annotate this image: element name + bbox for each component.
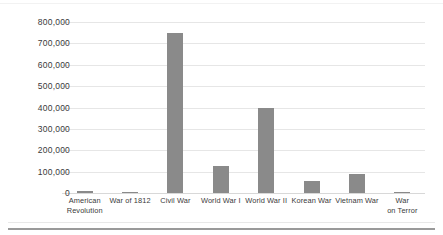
gridline <box>62 193 425 194</box>
x-axis-category-label: Waron Terror <box>373 196 432 215</box>
bar-series <box>62 22 425 193</box>
bar <box>122 192 138 194</box>
y-axis-tick-label: 800,000 <box>4 18 70 27</box>
figure-bottom-rule <box>8 228 435 230</box>
y-axis-tick-label: 400,000 <box>4 103 70 112</box>
bar <box>213 166 229 193</box>
x-axis-category-label-line: Revolution <box>55 206 114 216</box>
bar <box>394 192 410 194</box>
bar <box>349 174 365 193</box>
bar <box>77 191 93 193</box>
bar <box>304 181 320 193</box>
y-axis-tick-label: 300,000 <box>4 125 70 134</box>
y-axis-tick-label: 700,000 <box>4 39 70 48</box>
y-axis-tick-label: 500,000 <box>4 82 70 91</box>
bar <box>258 108 274 194</box>
y-axis-tick-label: 200,000 <box>4 146 70 155</box>
bar <box>167 33 183 193</box>
x-axis-category-label-line: on Terror <box>373 206 432 216</box>
x-axis-category-label-line: War <box>373 196 432 206</box>
figure-bottom-soft-rule <box>8 222 435 223</box>
chart-figure: 0100,000200,000300,000400,000500,000600,… <box>0 0 443 235</box>
y-axis-tick-label: 100,000 <box>4 167 70 176</box>
bar-chart: 0100,000200,000300,000400,000500,000600,… <box>0 0 443 235</box>
y-axis-tick-label: 600,000 <box>4 61 70 70</box>
